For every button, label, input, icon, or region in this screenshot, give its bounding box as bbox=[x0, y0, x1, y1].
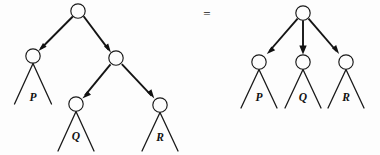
subtree-label-r-binary: R bbox=[155, 131, 164, 143]
node-multiway-child-q[interactable] bbox=[296, 55, 310, 69]
binary-tree-edges bbox=[38, 16, 154, 98]
edge-root-to-p bbox=[270, 19, 298, 51]
node-binary-root[interactable] bbox=[71, 4, 85, 18]
node-binary-q[interactable] bbox=[69, 97, 83, 111]
tree-equivalence-diagram: P Q R = bbox=[0, 0, 380, 155]
multiway-tree-group: P Q R bbox=[241, 6, 364, 108]
subtree-label-p-binary: P bbox=[29, 91, 37, 103]
node-binary-left-child[interactable] bbox=[26, 49, 40, 63]
subtree-label-r-multiway: R bbox=[341, 91, 350, 103]
arrowhead-right-to-q bbox=[82, 91, 91, 98]
arrowhead-right-to-r bbox=[147, 89, 154, 98]
edge-root-to-left bbox=[41, 17, 73, 49]
multiway-tree-edges bbox=[267, 19, 339, 55]
edge-right-to-q bbox=[85, 64, 111, 95]
equals-sign: = bbox=[203, 6, 210, 21]
node-multiway-child-r[interactable] bbox=[339, 55, 353, 69]
diagram-canvas: P Q R = bbox=[0, 0, 380, 155]
subtree-label-p-multiway: P bbox=[255, 91, 263, 103]
node-binary-right-child[interactable] bbox=[109, 51, 123, 65]
subtree-label-q-binary: Q bbox=[72, 130, 80, 142]
arrowhead-root-to-p bbox=[267, 47, 275, 55]
binary-tree-group: P Q R bbox=[15, 4, 179, 151]
edge-root-to-r bbox=[309, 19, 337, 51]
node-multiway-child-p[interactable] bbox=[252, 55, 266, 69]
node-binary-r[interactable] bbox=[153, 98, 167, 112]
edge-right-to-r bbox=[122, 64, 152, 95]
edge-root-to-right bbox=[84, 16, 109, 49]
subtree-label-q-multiway: Q bbox=[299, 91, 307, 103]
binary-tree-nodes bbox=[26, 4, 167, 112]
node-multiway-root[interactable] bbox=[296, 6, 310, 20]
arrowhead-root-to-q bbox=[299, 46, 306, 55]
